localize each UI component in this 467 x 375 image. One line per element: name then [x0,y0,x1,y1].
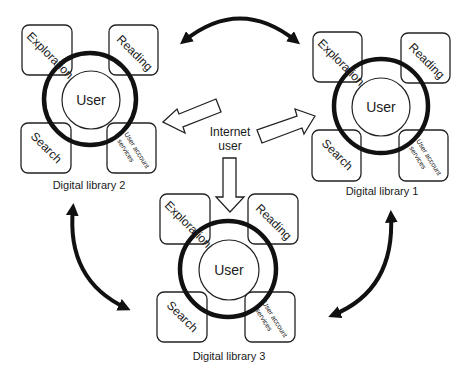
library-title: Digital library 2 [53,179,126,191]
digital-library-2: User Exploration Reading Search User acc… [21,25,158,191]
library-title: Digital library 3 [193,350,266,362]
internet-user-label-line1: Internet [210,125,251,139]
arrow-to-library-1-icon [257,109,315,143]
arrow-to-library-3-icon [216,158,244,212]
double-arrow-dl1-dl3-icon [333,215,391,315]
core-label: User [214,262,244,278]
digital-library-diagram: User Exploration Reading Search User acc… [0,0,467,375]
digital-library-1: User Exploration Reading Search User acc… [312,32,450,197]
core-label: User [366,99,396,115]
double-arrow-dl2-dl3-icon [72,208,126,308]
double-arrow-dl2-dl1-icon [184,19,296,42]
library-title: Digital library 1 [346,185,419,197]
core-label: User [76,92,106,108]
digital-library-3: User Exploration Reading Search User acc… [157,194,298,362]
internet-user-label-line2: user [218,139,241,153]
internet-user: Internet user [210,125,251,153]
